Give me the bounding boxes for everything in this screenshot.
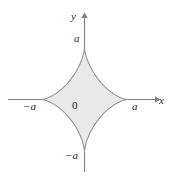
y-negative-tick-label: −a	[65, 150, 78, 161]
astroid-curve	[42, 48, 128, 152]
x-negative-tick-label: −a	[23, 101, 36, 112]
x-axis-label: x	[159, 95, 164, 106]
origin-label: 0	[72, 100, 78, 111]
y-axis-arrowhead-icon	[81, 13, 88, 19]
y-axis-label: y	[71, 11, 76, 22]
figure-canvas	[0, 0, 171, 178]
x-positive-tick-label: a	[132, 101, 138, 112]
astroid-figure: y x a −a −a a 0	[0, 0, 171, 178]
y-positive-tick-label: a	[74, 33, 80, 44]
